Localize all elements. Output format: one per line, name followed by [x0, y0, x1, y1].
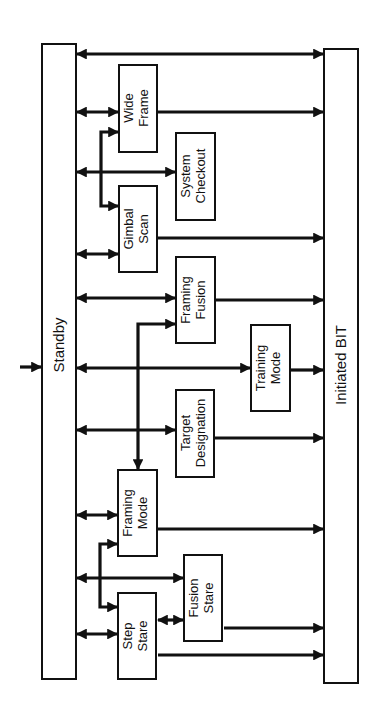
- system-checkout-line2: Checkout: [193, 148, 208, 203]
- target-designation-line2: Designation: [193, 399, 208, 468]
- training-mode-line1: Training: [253, 345, 268, 391]
- fusion-stare-line1: Fusion: [186, 578, 201, 617]
- step-stare-state: Step Stare: [118, 593, 156, 679]
- mode-transition-diagram: Standby Initiated BIT Wide Frame System …: [0, 0, 378, 718]
- target-designation-state: Target Designation: [176, 390, 214, 477]
- wide-frame-state: Wide Frame: [119, 65, 157, 152]
- system-checkout-state: System Checkout: [176, 133, 215, 220]
- framing-fusion-line1: Framing: [178, 276, 193, 324]
- target-designation-line1: Target: [178, 415, 193, 452]
- framing-fusion-framing-mode-connector: [138, 324, 175, 469]
- framing-mode-line2: Mode: [135, 497, 150, 530]
- wide-frame-line2: Frame: [136, 89, 151, 127]
- framing-fusion-state: Framing Fusion: [176, 257, 215, 343]
- gimbal-wide-frame-connector: [101, 132, 118, 206]
- fusion-stare-state: Fusion Stare: [184, 555, 222, 641]
- initiated-bit-state: Initiated BIT: [324, 49, 358, 683]
- fusion-stare-line2: Stare: [201, 582, 216, 613]
- framing-mode-state: Framing Mode: [118, 470, 157, 556]
- standby-state: Standby: [42, 44, 76, 679]
- system-checkout-line1: System: [178, 154, 193, 197]
- initiated-bit-label: Initiated BIT: [332, 325, 349, 405]
- wide-frame-line1: Wide: [121, 93, 136, 123]
- step-stare-line1: Step: [120, 623, 135, 650]
- step-stare-line2: Stare: [135, 620, 150, 651]
- step-stare-framing-mode-connector: [100, 544, 117, 607]
- training-mode-state: Training Mode: [251, 325, 290, 411]
- standby-label: Standby: [50, 317, 67, 373]
- framing-fusion-line2: Fusion: [193, 280, 208, 319]
- gimbal-scan-state: Gimbal Scan: [119, 186, 157, 272]
- gimbal-scan-line2: Scan: [136, 214, 151, 244]
- framing-mode-line1: Framing: [120, 489, 135, 537]
- gimbal-scan-line1: Gimbal: [121, 208, 136, 249]
- training-mode-line2: Mode: [268, 352, 283, 385]
